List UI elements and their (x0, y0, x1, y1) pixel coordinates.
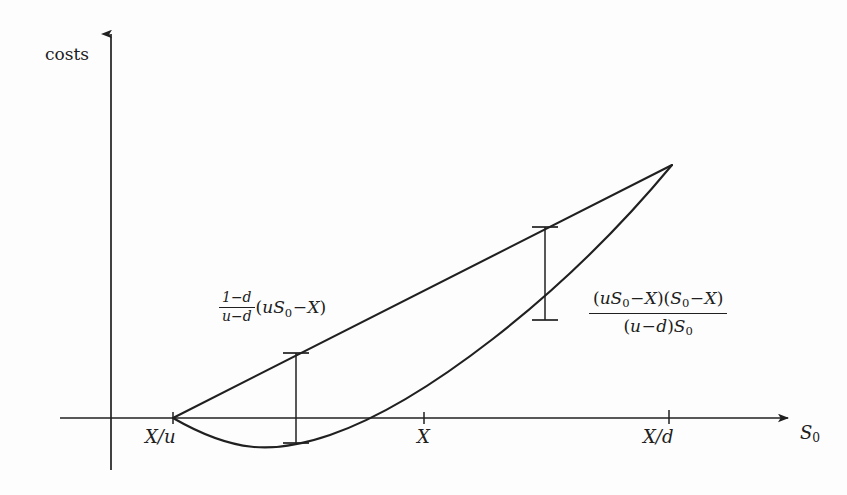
formula-left-X: X (307, 297, 319, 317)
formula-right-num-open1: ( (593, 288, 600, 308)
formula-left: 1−d u−d (uS0−X) (218, 292, 326, 326)
tick-label-x-over-u: X/u (145, 428, 175, 446)
x-axis-label: S0 (800, 424, 820, 445)
y-axis-label: costs (45, 46, 89, 63)
math-figure: costs S0 X/u X X/d 1−d u−d (uS0−X) (uS0−… (0, 0, 847, 495)
measure-bar-left (283, 353, 309, 443)
formula-left-S: S (273, 297, 285, 317)
x-axis-label-main: S (800, 422, 812, 443)
figure-canvas (0, 0, 847, 495)
formula-right-numerator: (uS0−X)(S0−X) (589, 288, 727, 314)
formula-right-den-d: d (656, 316, 667, 336)
formula-right-num-u: u (600, 288, 611, 308)
formula-right-denominator: (u−d)S0 (619, 314, 696, 339)
formula-left-minus: − (292, 297, 307, 317)
formula-right-num-minus2: − (689, 288, 704, 308)
formula-right-num-minus1: − (630, 288, 645, 308)
formula-right-num-S2: S (670, 288, 682, 308)
formula-right-den-minus: − (641, 316, 656, 336)
formula-right-num-X2: X (705, 288, 717, 308)
formula-left-fraction: 1−d u−d (219, 290, 255, 324)
formula-left-numerator: 1−d (219, 290, 254, 307)
tick-label-x: X (417, 428, 430, 446)
formula-left-denominator: u−d (219, 308, 255, 324)
x-axis-label-sub: 0 (812, 431, 820, 445)
measure-bar-right (532, 227, 558, 320)
formula-right-num-close1: ) (657, 288, 664, 308)
formula-right-den-S-sub: 0 (685, 324, 692, 338)
formula-right-num-S1-sub: 0 (622, 296, 629, 310)
formula-left-u: u (262, 297, 273, 317)
formula-right-den-u: u (630, 316, 641, 336)
formula-right-num-X1: X (645, 288, 657, 308)
formula-left-close-paren: ) (320, 297, 327, 317)
tick-label-x-over-d: X/d (643, 428, 673, 446)
formula-right-num-close2: ) (717, 288, 724, 308)
formula-right: (uS0−X)(S0−X) (u−d)S0 (589, 288, 727, 338)
formula-right-num-S1: S (611, 288, 623, 308)
formula-right-fraction: (uS0−X)(S0−X) (u−d)S0 (589, 288, 727, 338)
formula-right-den-S: S (674, 316, 686, 336)
formula-right-den-close: ) (667, 316, 674, 336)
